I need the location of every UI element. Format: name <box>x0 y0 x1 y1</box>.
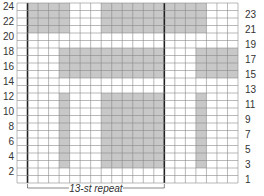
row-label-13: 13 <box>245 84 257 95</box>
row-label-21: 21 <box>245 24 257 35</box>
knitting-chart: 24681012141618202224 1357911131517192123… <box>0 0 264 196</box>
left-row-labels: 24681012141618202224 <box>3 1 15 177</box>
row-label-23: 23 <box>245 9 257 20</box>
repeat-label: 13-st repeat <box>69 183 124 194</box>
row-label-7: 7 <box>245 129 251 140</box>
row-label-10: 10 <box>3 106 15 117</box>
row-label-1: 1 <box>245 174 251 185</box>
row-label-19: 19 <box>245 39 257 50</box>
row-label-14: 14 <box>3 76 15 87</box>
row-label-11: 11 <box>245 99 256 110</box>
row-label-16: 16 <box>3 61 15 72</box>
repeat-bracket: 13-st repeat <box>28 183 165 194</box>
row-label-18: 18 <box>3 46 15 57</box>
row-label-2: 2 <box>8 166 14 177</box>
row-label-9: 9 <box>245 114 251 125</box>
row-label-3: 3 <box>245 159 251 170</box>
row-label-12: 12 <box>3 91 15 102</box>
row-label-17: 17 <box>245 54 257 65</box>
row-label-4: 4 <box>8 151 14 162</box>
right-row-labels: 1357911131517192123 <box>245 9 257 185</box>
row-label-8: 8 <box>8 121 14 132</box>
row-label-5: 5 <box>245 144 251 155</box>
row-label-20: 20 <box>3 31 15 42</box>
row-label-22: 22 <box>3 16 15 27</box>
row-label-15: 15 <box>245 69 257 80</box>
row-label-24: 24 <box>3 1 15 12</box>
row-label-6: 6 <box>8 136 14 147</box>
